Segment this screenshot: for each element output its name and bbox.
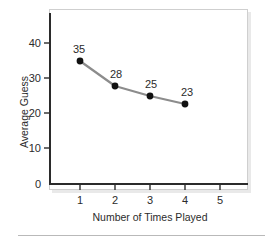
x-tick-label-4: 4 [182,194,188,206]
data-point-2 [112,83,119,90]
x-tick-label-3: 3 [147,194,153,206]
y-tick-label-10: 10 [29,142,41,154]
data-series-line [80,61,185,104]
x-tick-label-1: 1 [77,194,83,206]
x-tick-label-2: 2 [112,194,118,206]
y-tick-label-0: 0 [35,178,41,190]
chart-figure: 40 30 20 10 0 1 2 3 4 5 35 28 25 23 Numb… [0,0,272,241]
y-tick-label-20: 20 [29,107,41,119]
data-point-3 [147,93,154,100]
x-axis-title: Number of Times Played [93,211,208,223]
y-tick-label-30: 30 [29,72,41,84]
data-point-4 [182,101,189,108]
y-tick-label-40: 40 [29,37,41,49]
data-label-2: 28 [110,68,122,80]
line-chart: 40 30 20 10 0 1 2 3 4 5 35 28 25 23 Numb… [0,0,272,241]
data-label-3: 25 [145,78,157,90]
x-tick-label-5: 5 [217,194,223,206]
data-label-1: 35 [73,43,85,55]
y-axis-title: Average Guess [18,76,30,148]
data-label-4: 23 [181,86,193,98]
data-point-1 [77,58,84,65]
